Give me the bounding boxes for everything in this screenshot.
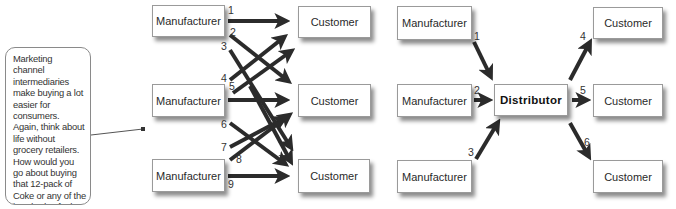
link-number: 7 xyxy=(221,141,227,153)
right-customer-3: Customer xyxy=(593,160,663,193)
link-number: 1 xyxy=(228,4,234,16)
box-label: Manufacturer xyxy=(402,95,467,107)
link-number: 8 xyxy=(236,153,242,165)
right-manufacturer-1: Manufacturer xyxy=(397,6,472,40)
right-customer-2: Customer xyxy=(593,84,663,117)
link-number: 1 xyxy=(474,30,480,42)
right-manufacturer-3: Manufacturer xyxy=(397,160,472,193)
link-number: 2 xyxy=(230,26,236,38)
box-label: Customer xyxy=(311,16,359,28)
box-label: Manufacturer xyxy=(156,95,221,107)
right-manufacturer-2: Manufacturer xyxy=(397,84,472,117)
box-label: Manufacturer xyxy=(402,17,467,29)
distributor-box: Distributor xyxy=(494,84,568,116)
link-number: 6 xyxy=(584,136,590,148)
box-label: Customer xyxy=(604,171,652,183)
link-number: 3 xyxy=(221,40,227,52)
left-manufacturer-3: Manufacturer xyxy=(152,159,225,192)
left-manufacturer-2: Manufacturer xyxy=(152,84,225,117)
left-customer-2: Customer xyxy=(298,84,371,117)
box-label: Customer xyxy=(604,17,652,29)
box-label: Customer xyxy=(311,95,359,107)
box-label: Manufacturer xyxy=(156,15,221,27)
link-number: 5 xyxy=(229,80,235,92)
link-number: 9 xyxy=(228,178,234,190)
link-number: 5 xyxy=(580,84,586,96)
link-number: 6 xyxy=(221,118,227,130)
left-customer-1: Customer xyxy=(298,6,371,38)
link-number: 4 xyxy=(221,72,227,84)
left-customer-3: Customer xyxy=(298,159,370,193)
link-number: 2 xyxy=(474,84,480,96)
box-label: Manufacturer xyxy=(402,171,467,183)
right-customer-1: Customer xyxy=(593,7,663,39)
box-label: Manufacturer xyxy=(156,170,221,182)
box-label: Customer xyxy=(310,170,358,182)
left-manufacturer-1: Manufacturer xyxy=(152,5,225,37)
box-label: Customer xyxy=(604,95,652,107)
link-number: 3 xyxy=(468,146,474,158)
box-label: Distributor xyxy=(500,94,562,106)
link-number: 4 xyxy=(580,30,586,42)
